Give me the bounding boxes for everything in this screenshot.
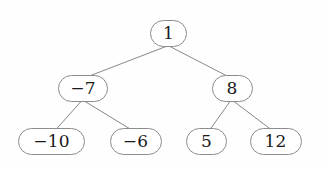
tree-edge (88, 47, 166, 77)
tree-node-n-7[interactable]: −7 (58, 75, 108, 102)
tree-node-label: 1 (163, 25, 174, 42)
tree-edge (234, 102, 271, 130)
tree-edge (210, 102, 230, 130)
tree-node-label: −7 (70, 80, 95, 97)
tree-node-label: −6 (123, 133, 148, 150)
tree-node-label: 12 (264, 133, 286, 150)
tree-node-n12[interactable]: 12 (250, 128, 302, 155)
tree-edge (85, 102, 131, 130)
tree-node-label: −10 (33, 133, 69, 150)
tree-node-n8[interactable]: 8 (212, 75, 253, 102)
tree-node-label: 8 (226, 80, 237, 97)
tree-node-root[interactable]: 1 (150, 20, 187, 47)
tree-node-n5[interactable]: 5 (186, 128, 227, 155)
binary-tree-diagram: 1−78−10−6512 (0, 0, 327, 169)
tree-node-label: 5 (201, 133, 212, 150)
tree-node-n-6[interactable]: −6 (110, 128, 162, 155)
tree-edge (56, 102, 81, 130)
tree-edge (170, 47, 228, 77)
tree-node-n-10[interactable]: −10 (18, 128, 85, 155)
